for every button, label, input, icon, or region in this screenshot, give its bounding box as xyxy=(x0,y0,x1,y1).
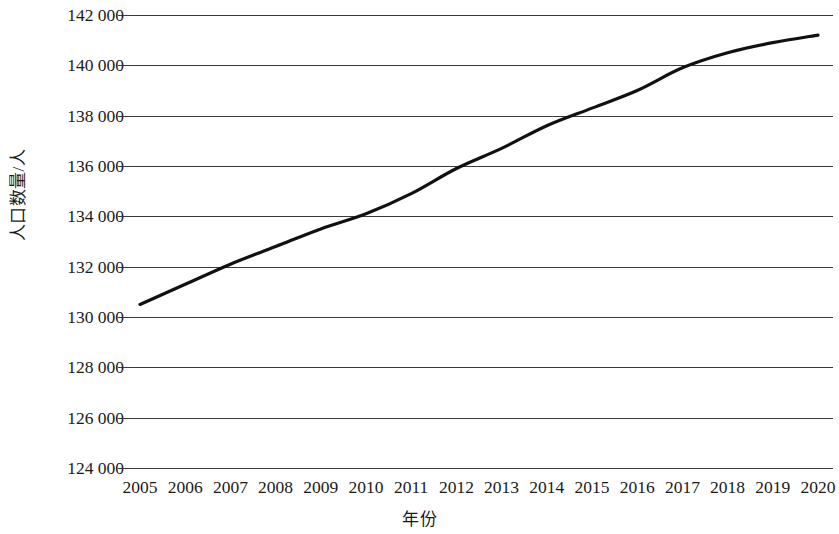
y-axis-tick-label: 128 000 xyxy=(36,358,124,376)
y-axis-tick-label: 138 000 xyxy=(36,107,124,125)
population-line-chart: 人口数量/人 142 000140 000138 000136 000134 0… xyxy=(0,0,839,534)
x-axis-title: 年份 xyxy=(0,505,839,530)
y-axis-tick-label: 136 000 xyxy=(36,157,124,175)
x-axis-tick-labels: 2005200620072008200920102011201220132014… xyxy=(0,476,839,500)
y-axis-tick-label: 140 000 xyxy=(36,56,124,74)
y-axis-tick-label: 134 000 xyxy=(36,207,124,225)
y-axis-tick-label: 126 000 xyxy=(36,409,124,427)
y-axis-title: 人口数量/人 xyxy=(3,115,29,275)
y-axis-tick-label: 130 000 xyxy=(36,308,124,326)
series-path-population xyxy=(140,35,818,304)
series-line xyxy=(126,0,833,534)
x-axis-tick-label: 2020 xyxy=(790,476,839,498)
plot-area xyxy=(126,0,833,534)
y-axis-tick-labels: 142 000140 000138 000136 000134 000132 0… xyxy=(36,0,124,534)
y-axis-tick-label: 132 000 xyxy=(36,258,124,276)
y-axis-tick-label: 124 000 xyxy=(36,459,124,477)
y-axis-tick-label: 142 000 xyxy=(36,6,124,24)
